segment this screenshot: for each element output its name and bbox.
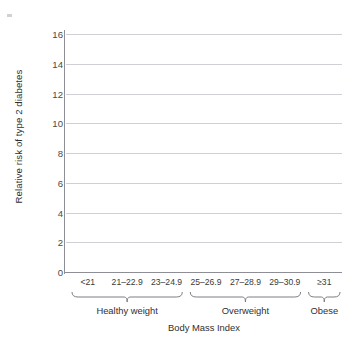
- group-label: Overweight: [222, 305, 269, 316]
- y-tick-label: 4: [37, 207, 63, 218]
- group-label: Healthy weight: [96, 305, 158, 316]
- group-label: Obese: [310, 305, 338, 316]
- y-axis-title: Relative risk of type 2 diabetes: [8, 0, 30, 272]
- x-tick-label: 21–22.9: [112, 277, 143, 287]
- y-tick-label: 16: [37, 29, 63, 40]
- group-brace: [72, 292, 182, 302]
- y-tick-label: 6: [37, 177, 63, 188]
- group-braces: [66, 291, 342, 304]
- y-tick-label: 14: [37, 58, 63, 69]
- bar-chart: Relative risk of type 2 diabetes 0246810…: [0, 0, 351, 344]
- x-axis-title: Body Mass Index: [66, 322, 342, 333]
- y-tick-label: 2: [37, 237, 63, 248]
- x-tick-label: <21: [80, 277, 95, 287]
- brace-svg: [66, 291, 342, 304]
- y-tick-label: 0: [37, 267, 63, 278]
- group-brace: [309, 292, 340, 302]
- y-tick-label: 10: [37, 118, 63, 129]
- x-tick-label: 23–24.9: [151, 277, 182, 287]
- x-tick-label: ≥31: [317, 277, 331, 287]
- x-tick-label: 27–28.9: [230, 277, 261, 287]
- group-brace: [190, 292, 300, 302]
- x-tick-label: 29–30.9: [269, 277, 300, 287]
- y-tick-label: 8: [37, 148, 63, 159]
- bars-layer: [66, 0, 342, 272]
- x-tick-label: 25–26.9: [190, 277, 221, 287]
- group-labels: Healthy weightOverweightObese: [66, 305, 342, 319]
- y-tick-label: 12: [37, 88, 63, 99]
- y-axis-title-text: Relative risk of type 2 diabetes: [14, 69, 25, 203]
- x-axis-tick-labels: <2121–22.923–24.925–26.927–28.929–30.9≥3…: [66, 277, 342, 291]
